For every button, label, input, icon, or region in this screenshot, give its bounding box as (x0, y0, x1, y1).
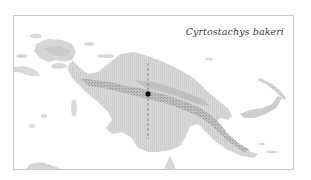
australia-cape-york (24, 156, 176, 170)
map-figure: Cyrtostachys bakeri (0, 0, 311, 180)
map-frame: Cyrtostachys bakeri (13, 15, 294, 170)
occurrence-marker (145, 91, 150, 96)
new-guinea-mainland (68, 52, 258, 158)
eastern-islands (240, 78, 286, 154)
birds-head-peninsula (34, 39, 76, 62)
species-title: Cyrtostachys bakeri (186, 26, 284, 37)
map-canvas (14, 16, 294, 170)
